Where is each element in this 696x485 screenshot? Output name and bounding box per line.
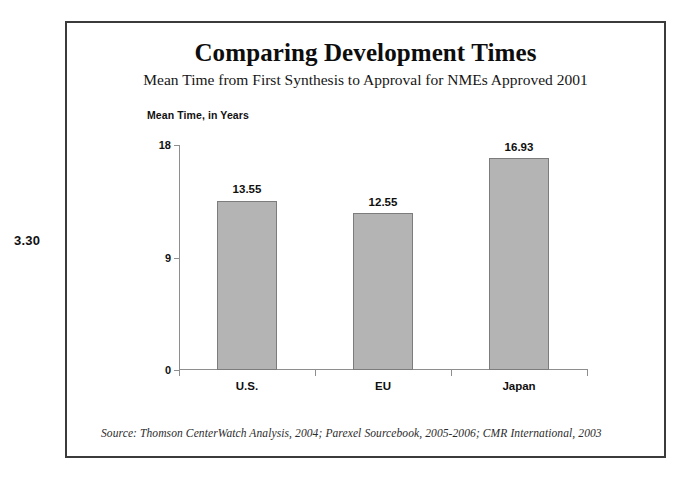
bar-us — [217, 201, 277, 370]
figure-number: 3.30 — [14, 233, 40, 248]
bar-eu — [353, 213, 413, 370]
x-axis-divider-2 — [451, 370, 452, 376]
plot-area: 18 9 0 13.55 U.S. 12.55 EU 16.93 Japan — [179, 145, 588, 370]
y-axis-label: Mean Time, in Years — [147, 109, 249, 121]
y-tick-label-9: 9 — [165, 252, 171, 264]
source-note: Source: Thomson CenterWatch Analysis, 20… — [101, 427, 602, 439]
bar-group-japan: 16.93 Japan — [451, 145, 587, 370]
category-label-us: U.S. — [236, 380, 258, 392]
category-label-eu: EU — [375, 380, 391, 392]
y-tick-label-18: 18 — [159, 139, 171, 151]
bar-value-japan: 16.93 — [505, 141, 534, 153]
bar-group-us: 13.55 U.S. — [179, 145, 315, 370]
bar-japan — [489, 158, 549, 370]
figure-frame: Comparing Development Times Mean Time fr… — [65, 21, 666, 458]
bar-value-us: 13.55 — [233, 183, 262, 195]
x-axis-divider-right — [587, 370, 588, 376]
category-label-japan: Japan — [502, 380, 535, 392]
y-tick-label-0: 0 — [165, 364, 171, 376]
x-axis-divider-1 — [315, 370, 316, 376]
x-axis-divider-left — [179, 370, 180, 376]
bar-group-eu: 12.55 EU — [315, 145, 451, 370]
chart-title: Comparing Development Times — [67, 39, 664, 67]
chart-subtitle: Mean Time from First Synthesis to Approv… — [67, 71, 664, 89]
bar-value-eu: 12.55 — [369, 196, 398, 208]
